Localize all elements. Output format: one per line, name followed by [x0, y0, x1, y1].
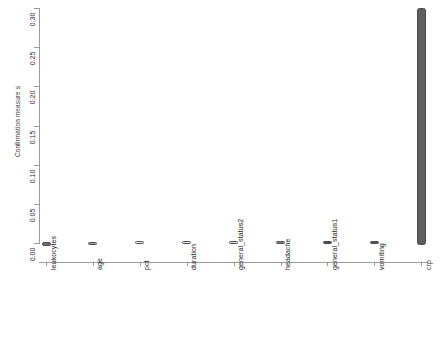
box-general_status1: [323, 241, 332, 243]
y-tick-label-6: 0.30: [29, 7, 36, 33]
x-tick-2: [140, 262, 141, 266]
x-tick-label-general_status1: general_status1: [331, 219, 338, 270]
x-tick-label-general_status2: general_status2: [237, 219, 244, 270]
x-tick-5: [281, 262, 282, 266]
y-tick-label-0: 0.00: [29, 242, 36, 268]
x-tick-4: [234, 262, 235, 266]
x-tick-label-leukocytes: leukocytes: [50, 236, 57, 270]
x-tick-label-duration: duration: [190, 244, 197, 270]
x-tick-label-crp: crp: [425, 260, 432, 270]
x-tick-label-headache: headache: [284, 238, 291, 270]
y-tick-label-5: 0.25: [29, 46, 36, 72]
box-vomiting: [370, 241, 379, 243]
box-general_status2: [229, 241, 238, 243]
box-age: [88, 242, 97, 245]
chart-root: Confirmation measure s 0.000.050.100.150…: [0, 0, 440, 354]
box-pct: [135, 241, 144, 243]
x-tick-label-age: age: [96, 258, 103, 270]
x-tick-0: [46, 262, 47, 266]
box-headache: [276, 241, 285, 243]
x-tick-1: [93, 262, 94, 266]
box-leukocytes: [42, 242, 51, 246]
x-tick-3: [187, 262, 188, 266]
y-axis-title: Confirmation measure s: [14, 52, 21, 192]
x-tick-6: [327, 262, 328, 266]
x-tick-8: [421, 262, 422, 266]
y-axis-line: [39, 8, 40, 244]
y-tick-label-4: 0.20: [29, 85, 36, 111]
box-crp: [417, 8, 426, 245]
x-tick-label-pct: pct: [143, 260, 150, 270]
x-tick-label-vomiting: vomiting: [378, 243, 385, 270]
x-tick-7: [374, 262, 375, 266]
box-duration: [182, 241, 191, 243]
y-tick-label-2: 0.10: [29, 163, 36, 189]
y-tick-label-1: 0.05: [29, 202, 36, 228]
y-tick-label-3: 0.15: [29, 124, 36, 150]
